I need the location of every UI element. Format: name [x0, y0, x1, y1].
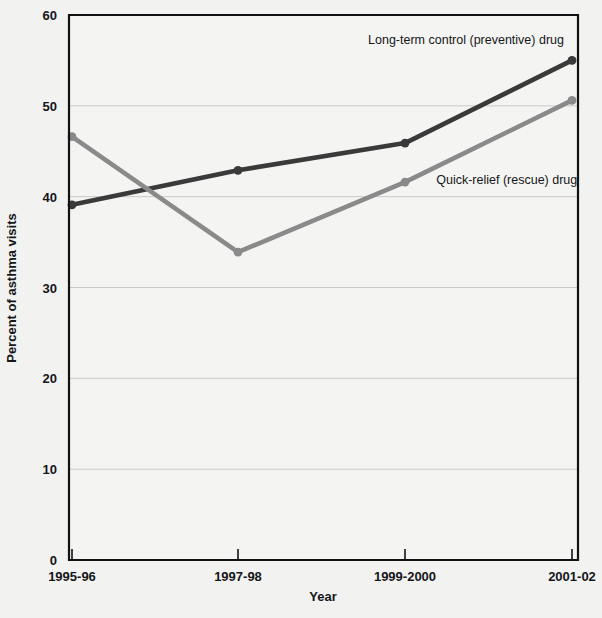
y-axis-title: Percent of asthma visits: [4, 213, 19, 363]
y-tick-label: 10: [43, 462, 57, 477]
x-tick-label: 2001-02: [548, 569, 596, 584]
series-label-quick-relief: Quick-relief (rescue) drug: [436, 173, 577, 187]
data-point-marker: [234, 166, 243, 175]
chart-canvas: 6050403020100 1995-961997-981999-2000200…: [0, 0, 602, 618]
asthma-drug-line-chart: 6050403020100 1995-961997-981999-2000200…: [0, 0, 602, 618]
series-label-long-term-control: Long-term control (preventive) drug: [368, 33, 564, 47]
x-tick-label: 1995-96: [48, 569, 96, 584]
data-point-marker: [568, 96, 577, 105]
y-tick-label: 40: [43, 190, 57, 205]
y-tick-label: 50: [43, 99, 57, 114]
y-tick-label: 60: [43, 8, 57, 23]
x-tick-label: 1997-98: [214, 569, 262, 584]
x-tick-label: 1999-2000: [374, 569, 436, 584]
data-point-marker: [568, 56, 577, 65]
data-point-marker: [401, 139, 410, 148]
y-tick-label: 0: [50, 553, 57, 568]
data-point-marker: [401, 178, 410, 187]
y-tick-label: 30: [43, 281, 57, 296]
y-tick-label: 20: [43, 371, 57, 386]
x-axis-title: Year: [309, 589, 336, 604]
data-point-marker: [234, 248, 243, 257]
